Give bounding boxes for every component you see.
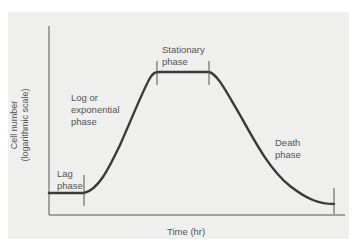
log-line1: Log or [71, 92, 120, 104]
death-phase-label: Death phase [275, 137, 301, 161]
log-line3: phase [71, 116, 120, 128]
log-phase-label: Log or exponential phase [71, 92, 120, 128]
stationary-phase-label: Stationary phase [162, 44, 205, 68]
lag-line2: phase [57, 180, 83, 192]
growth-curve-plot [0, 0, 362, 251]
lag-phase-label: Lag phase [57, 168, 83, 192]
stationary-line2: phase [162, 56, 205, 68]
x-axis-label: Time (hr) [167, 226, 205, 237]
death-line2: phase [275, 149, 301, 161]
stationary-line1: Stationary [162, 44, 205, 56]
lag-line1: Lag [57, 168, 83, 180]
y-axis-label-line2: (logarithmic scale) [20, 65, 31, 185]
y-axis-label: Cell number (logarithmic scale) [9, 65, 31, 185]
y-axis-label-line1: Cell number [9, 65, 20, 185]
log-line2: exponential [71, 104, 120, 116]
death-line1: Death [275, 137, 301, 149]
